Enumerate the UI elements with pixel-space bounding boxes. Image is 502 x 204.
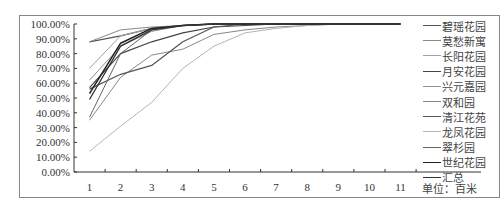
legend-swatch-icon xyxy=(423,86,441,87)
y-tick-label: 40.00% xyxy=(36,107,70,119)
x-tick-label: 7 xyxy=(273,181,279,193)
x-axis: 1234567891011 xyxy=(74,169,481,193)
x-tick-label: 10 xyxy=(364,181,376,193)
legend-label: 碧瑶花园 xyxy=(442,18,486,34)
legend-label: 莫愁新寓 xyxy=(442,33,486,49)
y-tick-label: 80.00% xyxy=(36,48,70,60)
y-tick-label: 50.00% xyxy=(36,92,70,104)
legend-swatch-icon xyxy=(423,71,441,72)
y-axis: 0.00%10.00%20.00%30.00%40.00%50.00%60.00… xyxy=(31,18,77,178)
legend-item: 兴元嘉园 xyxy=(423,79,499,94)
series-line xyxy=(90,24,401,151)
legend-label: 兴元嘉园 xyxy=(442,78,486,94)
legend-swatch-icon xyxy=(423,116,441,117)
x-tick-label: 5 xyxy=(211,181,217,193)
y-tick-label: 100.00% xyxy=(31,18,70,30)
legend-label: 龙凤花园 xyxy=(442,124,486,140)
legend-swatch-icon xyxy=(423,55,441,56)
series-line xyxy=(90,24,401,68)
legend-item: 翠杉园 xyxy=(423,140,499,155)
y-tick-label: 90.00% xyxy=(36,33,70,45)
x-tick-label: 9 xyxy=(336,181,342,193)
legend-swatch-icon xyxy=(423,147,441,148)
series-line xyxy=(90,24,401,88)
legend-item: 碧瑶花园 xyxy=(423,18,499,33)
legend-label: 双和园 xyxy=(442,94,475,110)
legend-item: 世纪花园 xyxy=(423,155,499,170)
x-tick-label: 4 xyxy=(180,181,186,193)
legend-item: 双和园 xyxy=(423,94,499,109)
legend-label: 翠杉园 xyxy=(442,139,475,155)
y-tick-label: 60.00% xyxy=(36,77,70,89)
y-tick-label: 30.00% xyxy=(36,122,70,134)
legend-swatch-icon xyxy=(423,25,441,26)
x-tick-label: 2 xyxy=(118,181,124,193)
chart-legend: 碧瑶花园莫愁新寓长阳花园月安花园兴元嘉园双和园清江花苑龙凤花园翠杉园世纪花园汇总 xyxy=(423,18,499,185)
legend-swatch-icon xyxy=(423,40,441,41)
legend-swatch-icon xyxy=(423,162,441,163)
legend-label: 长阳花园 xyxy=(442,48,486,64)
legend-item: 月安花园 xyxy=(423,64,499,79)
y-tick-label: 70.00% xyxy=(36,62,70,74)
legend-swatch-icon xyxy=(423,131,441,132)
x-tick-label: 3 xyxy=(149,181,155,193)
x-tick-label: 8 xyxy=(304,181,310,193)
unit-label: 单位：百米 xyxy=(422,180,477,196)
legend-item: 长阳花园 xyxy=(423,48,499,63)
legend-item: 清江花苑 xyxy=(423,109,499,124)
y-tick-label: 10.00% xyxy=(36,151,70,163)
legend-swatch-icon xyxy=(423,101,441,102)
x-tick-label: 6 xyxy=(242,181,248,193)
legend-swatch-icon xyxy=(423,177,441,178)
series-line xyxy=(90,24,401,94)
y-tick-label: 0.00% xyxy=(42,166,70,178)
series-lines xyxy=(90,24,401,151)
series-line xyxy=(90,24,401,89)
legend-label: 世纪花园 xyxy=(442,154,486,170)
legend-item: 龙凤花园 xyxy=(423,124,499,139)
legend-item: 莫愁新寓 xyxy=(423,33,499,48)
legend-label: 月安花园 xyxy=(442,63,486,79)
x-tick-label: 11 xyxy=(395,181,406,193)
x-tick-label: 1 xyxy=(87,181,93,193)
y-tick-label: 20.00% xyxy=(36,136,70,148)
legend-label: 清江花苑 xyxy=(442,109,486,125)
